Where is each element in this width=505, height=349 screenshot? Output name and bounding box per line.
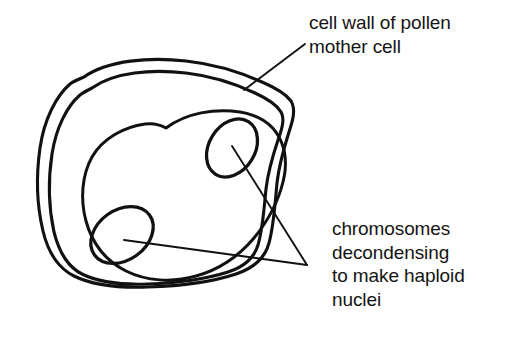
chromosome-mass-lower <box>80 195 164 275</box>
cell-wall-leader-line <box>244 44 305 90</box>
label-cell-wall: cell wall of pollen mother cell <box>309 11 451 58</box>
label-chromosomes: chromosomes decondensing to make haploid… <box>332 217 465 311</box>
pollen-mother-cell-diagram: cell wall of pollen mother cell chromoso… <box>0 0 505 349</box>
chromosome-mass-upper <box>196 110 268 187</box>
chromosome-leader-line-lower <box>124 240 307 265</box>
